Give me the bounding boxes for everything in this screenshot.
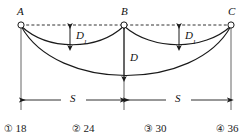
answer-option-3-value: 30 [155, 122, 166, 134]
wire-arc-bc [124, 26, 231, 45]
span-label-right: S [175, 93, 181, 104]
node-circle-b [121, 22, 127, 28]
sag-label-d-base: D [130, 51, 138, 63]
span-label-right-base: S [175, 92, 181, 104]
answer-option-1-value: 18 [15, 122, 26, 134]
answer-options-row: ①18 ②24 ③30 ④36 [0, 118, 252, 138]
answer-option-4[interactable]: ④36 [216, 121, 238, 136]
diagram-canvas [0, 0, 252, 118]
figure-root: A B C D1 D1 D S S ①18 ②24 ③30 ④36 [0, 0, 252, 138]
sag-label-d: D [130, 52, 138, 63]
sag-label-d1-left-sub: 1 [83, 38, 87, 46]
node-circle-a [18, 22, 24, 28]
answer-option-4-number: ④ [216, 123, 225, 134]
point-label-a: A [17, 6, 24, 17]
wire-arc-ac [21, 26, 231, 76]
answer-option-2-value: 24 [83, 122, 94, 134]
answer-option-1-number: ① [4, 123, 13, 134]
answer-option-3[interactable]: ③30 [144, 121, 166, 136]
sag-label-d1-right-sub: 1 [192, 38, 196, 46]
wire-arc-ab [21, 26, 124, 45]
point-label-b: B [121, 6, 128, 17]
sag-label-d1-right: D1 [185, 30, 196, 44]
answer-option-2[interactable]: ②24 [72, 121, 94, 136]
span-label-left-base: S [70, 92, 76, 104]
answer-option-4-value: 36 [227, 122, 238, 134]
point-label-c: C [228, 6, 235, 17]
answer-option-1[interactable]: ①18 [4, 121, 26, 136]
answer-option-2-number: ② [72, 123, 81, 134]
sag-label-d1-left: D1 [76, 30, 87, 44]
answer-option-3-number: ③ [144, 123, 153, 134]
node-circle-c [228, 22, 234, 28]
span-label-left: S [70, 93, 76, 104]
